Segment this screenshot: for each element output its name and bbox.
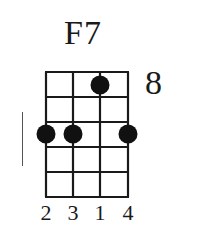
finger-dot [37, 125, 56, 144]
finger-dot [91, 76, 110, 95]
finger-number: 2 [36, 200, 56, 226]
finger-number: 4 [118, 200, 138, 226]
finger-dot [64, 125, 83, 144]
finger-number: 3 [63, 200, 83, 226]
finger-dot [119, 125, 138, 144]
finger-number: 1 [90, 200, 110, 226]
